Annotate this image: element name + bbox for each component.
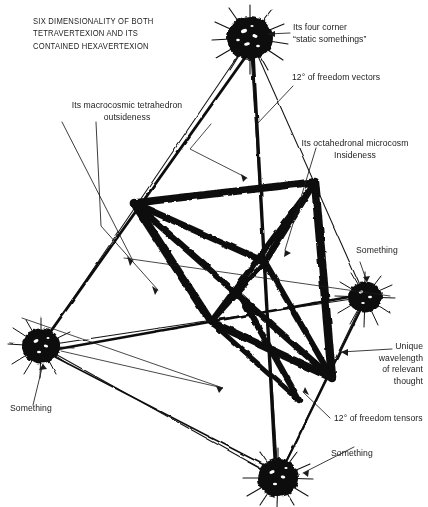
leader-something-left <box>33 364 43 405</box>
vertex-blob-right <box>335 272 395 327</box>
vertex-blob-bottom <box>243 448 313 507</box>
label-freedom-tensors: 12° of freedom tensors <box>334 413 423 425</box>
leader-freedom-tensors <box>303 392 330 418</box>
label-something-left: Something <box>10 403 52 415</box>
leader-freedom-vectors <box>257 86 293 124</box>
vertex-blob-top <box>212 5 288 74</box>
label-four-corner-static-somethings: Its four corner “static somethings” <box>293 22 366 45</box>
leader-macrocosmic-a <box>62 122 133 261</box>
figure-title: SIX DIMENSIONALITY OF BOTH TETRAVERTEXIO… <box>33 16 154 53</box>
label-unique-wavelength: Unique wavelength of relevant thought <box>349 341 423 388</box>
label-octahedronal-microcosm-insideness: Its octahedronal microcosm Insideness <box>286 138 425 161</box>
label-macrocosmic-tetrahedron-outsideness: Its macrocosmic tetrahedron outsideness <box>45 100 208 123</box>
label-something-bottom: Something <box>331 448 373 460</box>
leader-insideness <box>285 148 316 250</box>
label-freedom-vectors: 12° of freedom vectors <box>292 72 380 84</box>
leader-lines <box>22 33 392 473</box>
label-something-right: Something <box>356 245 398 257</box>
